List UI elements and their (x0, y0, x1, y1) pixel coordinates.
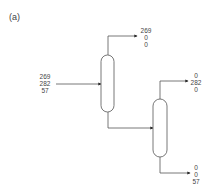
column-2-top-composition: 0 282 0 (188, 72, 204, 93)
intermediate-stream (108, 112, 153, 128)
column-1-top-composition: 269 0 0 (138, 27, 154, 48)
c2-top-value-3: 0 (188, 86, 204, 93)
c2-bottom-value-1: 0 (189, 164, 203, 171)
column-2-vessel (153, 99, 167, 157)
feed-composition: 269 282 57 (36, 73, 54, 94)
column-1-top-stream (108, 36, 137, 55)
feed-value-2: 282 (36, 80, 54, 87)
column-2-top-stream (160, 81, 188, 99)
c2-top-value-2: 282 (188, 79, 204, 86)
c2-bottom-value-2: 0 (189, 171, 203, 178)
c1-top-value-2: 0 (138, 34, 154, 41)
feed-value-1: 269 (36, 73, 54, 80)
distillation-flowsheet (0, 0, 216, 192)
c1-top-value-3: 0 (138, 41, 154, 48)
column-1-vessel (101, 55, 114, 112)
column-2-bottom-stream (160, 157, 190, 173)
feed-value-3: 57 (36, 87, 54, 94)
c2-top-value-1: 0 (188, 72, 204, 79)
c1-top-value-1: 269 (138, 27, 154, 34)
c2-bottom-value-3: 57 (189, 178, 203, 185)
column-2-bottom-composition: 0 0 57 (189, 164, 203, 185)
